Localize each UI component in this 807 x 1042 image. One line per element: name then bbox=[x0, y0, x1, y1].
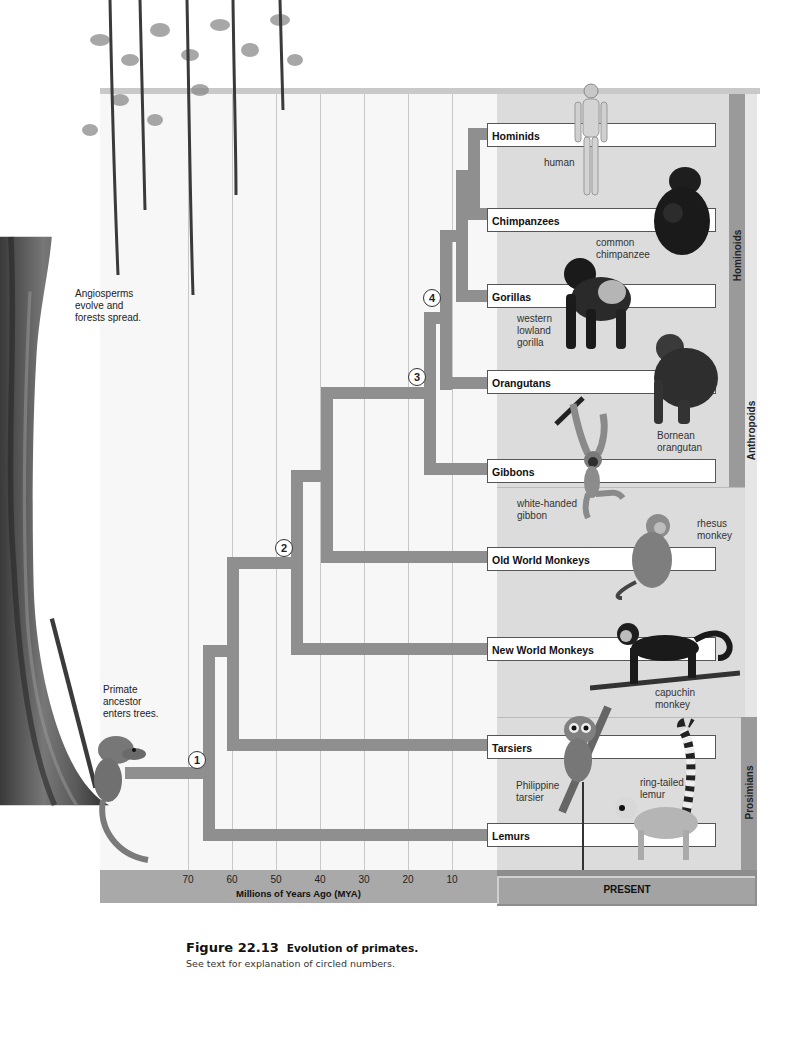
branch-node1-vertical bbox=[203, 645, 215, 841]
figure-caption-title: Figure 22.13Evolution of primates. bbox=[186, 940, 418, 955]
orangutan-illustration bbox=[648, 330, 720, 426]
species-label-rhesus: rhesus monkey bbox=[697, 518, 732, 542]
annotation-angiosperms: Angiosperms evolve and forests spread. bbox=[75, 288, 141, 324]
branch-node2-vertical bbox=[291, 470, 303, 655]
species-label-orangutan: Bornean orangutan bbox=[657, 430, 702, 454]
figure-number: Figure 22.13 bbox=[186, 940, 279, 955]
present-label: PRESENT bbox=[497, 876, 755, 904]
capuchin-monkey-illustration bbox=[590, 618, 740, 693]
node-marker-3: 3 bbox=[408, 368, 426, 386]
branch-to-hominoids bbox=[321, 387, 435, 399]
node-marker-4: 4 bbox=[423, 289, 441, 307]
branch-hominins-vertical bbox=[468, 128, 480, 220]
tick-10: 10 bbox=[437, 874, 467, 885]
branch-orangutans bbox=[440, 377, 488, 389]
group-label-anthropoids: Anthropoids bbox=[746, 391, 757, 471]
group-label-hominoids: Hominoids bbox=[732, 216, 743, 296]
tick-40: 40 bbox=[305, 874, 335, 885]
branch-new-world-monkeys bbox=[291, 643, 488, 655]
species-label-human: human bbox=[544, 157, 575, 169]
species-label-lemur: ring-tailed lemur bbox=[640, 777, 684, 801]
gridline-20 bbox=[408, 94, 409, 870]
chimpanzee-illustration bbox=[651, 163, 713, 258]
species-label-gorilla: western lowland gorilla bbox=[517, 313, 552, 349]
branch-lemurs bbox=[203, 829, 488, 841]
branch-old-world-monkeys bbox=[321, 551, 488, 563]
figure-title: Evolution of primates. bbox=[287, 942, 418, 954]
node-marker-1: 1 bbox=[188, 751, 206, 769]
branch-african-apes-vertical bbox=[456, 170, 468, 302]
figure-caption-subtitle: See text for explanation of circled numb… bbox=[186, 958, 395, 969]
gorilla-illustration bbox=[556, 254, 634, 354]
annotation-primate-ancestor: Primate ancestor enters trees. bbox=[103, 684, 159, 720]
human-illustration bbox=[571, 82, 611, 200]
group-label-prosimians: Prosimians bbox=[744, 753, 755, 833]
species-label-tarsier: Philippine tarsier bbox=[516, 780, 559, 804]
gridline-10 bbox=[452, 94, 453, 870]
branch-gorillas bbox=[456, 290, 488, 302]
gridline-30 bbox=[364, 94, 365, 870]
branch-catarrhine-vertical bbox=[321, 387, 333, 563]
species-label-gibbon: white-handed gibbon bbox=[517, 498, 577, 522]
branch-node4-vertical bbox=[440, 230, 452, 390]
tick-20: 20 bbox=[393, 874, 423, 885]
hanging-vines-illustration bbox=[60, 0, 320, 300]
branch-hominids bbox=[468, 128, 488, 140]
branch-root bbox=[125, 767, 213, 779]
axis-title: Millions of Years Ago (MYA) bbox=[100, 888, 497, 899]
primate-ancestor-illustration bbox=[78, 720, 158, 870]
branch-haplorhine-vertical bbox=[227, 557, 239, 751]
tick-60: 60 bbox=[217, 874, 247, 885]
species-label-capuchin: capuchin monkey bbox=[655, 687, 695, 711]
species-label-chimpanzee: common chimpanzee bbox=[596, 237, 650, 261]
tick-30: 30 bbox=[349, 874, 379, 885]
rhesus-monkey-illustration bbox=[610, 510, 690, 600]
tick-70: 70 bbox=[173, 874, 203, 885]
branch-tarsiers bbox=[227, 739, 488, 751]
branch-chimpanzees bbox=[468, 208, 488, 220]
branch-node3-vertical bbox=[424, 312, 436, 475]
node-marker-2: 2 bbox=[275, 539, 293, 557]
tick-50: 50 bbox=[261, 874, 291, 885]
branch-gibbons bbox=[424, 463, 488, 475]
